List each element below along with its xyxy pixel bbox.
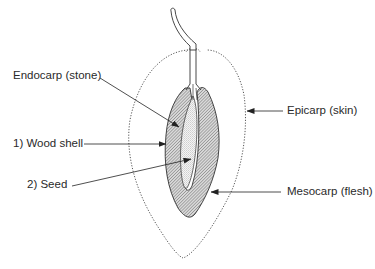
- epicarp-label: Epicarp (skin): [287, 104, 357, 117]
- endocarp-leader: [100, 78, 179, 127]
- stalk-vascular: [186, 48, 201, 90]
- mesocarp-label: Mesocarp (flesh): [287, 185, 373, 198]
- endocarp-label: Endocarp (stone): [13, 69, 101, 82]
- wood-shell-label: 1) Wood shell: [13, 137, 83, 150]
- drupe-diagram: [0, 0, 375, 269]
- seed-label: 2) Seed: [27, 178, 67, 191]
- stem: [171, 8, 196, 50]
